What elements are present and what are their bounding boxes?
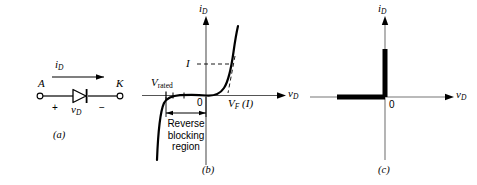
vertical-axis-arrow-head bbox=[203, 16, 209, 25]
reverse-region-arrow-left bbox=[166, 111, 173, 115]
v-rated-label: Vrated bbox=[151, 77, 173, 90]
panel-b-x-axis-label: vD bbox=[288, 88, 298, 101]
reverse-blocking-region-label: Reverse blocking region bbox=[160, 118, 212, 153]
current-level-label: I bbox=[186, 58, 190, 69]
horizontal-axis-arrow-head bbox=[277, 92, 286, 98]
panel-b-y-axis-label: iD bbox=[199, 3, 207, 16]
cathode-label: K bbox=[116, 78, 123, 89]
panel-c-drawing bbox=[300, 0, 477, 185]
anode-label: A bbox=[38, 78, 45, 89]
reverse-region-line-1: Reverse bbox=[160, 118, 212, 130]
caption-c: (c) bbox=[378, 164, 390, 175]
panel-a-diode-symbol: A K iD vD + − (a) bbox=[0, 0, 160, 185]
caption-a: (a) bbox=[53, 129, 65, 140]
vf-label: VF (I) bbox=[228, 98, 253, 111]
current-arrow-head bbox=[96, 74, 104, 80]
voltage-label-vd: vD bbox=[71, 104, 81, 117]
diode-triangle bbox=[73, 90, 86, 103]
reverse-region-line-3: region bbox=[160, 141, 212, 153]
minus-sign-label: − bbox=[99, 103, 105, 113]
reverse-region-arrow-right bbox=[199, 111, 206, 115]
panel-c-vertical-axis-arrow-head bbox=[382, 16, 388, 25]
anode-terminal-node bbox=[37, 93, 43, 99]
panel-c-ideal-characteristic: iD vD 0 (c) bbox=[300, 0, 477, 185]
cathode-terminal-node bbox=[117, 93, 123, 99]
figure-container: A K iD vD + − (a) bbox=[0, 0, 477, 185]
panel-c-x-axis-label: vD bbox=[456, 89, 466, 102]
panel-a-drawing bbox=[0, 0, 160, 185]
current-label-id: iD bbox=[55, 59, 63, 72]
plus-sign-label: + bbox=[52, 103, 58, 113]
panel-c-horizontal-axis-arrow-head bbox=[445, 94, 454, 100]
reverse-region-line-2: blocking bbox=[160, 130, 212, 142]
panel-b-iv-characteristic: iD vD 0 Vrated I VF (I) Reverse blocking… bbox=[140, 0, 320, 185]
panel-c-y-axis-label: iD bbox=[378, 3, 386, 16]
panel-b-origin-label: 0 bbox=[197, 98, 203, 108]
panel-c-origin-label: 0 bbox=[389, 100, 395, 110]
caption-b: (b) bbox=[202, 164, 214, 175]
